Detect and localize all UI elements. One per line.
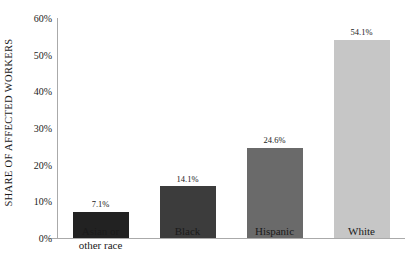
y-axis-tick-label: 40% xyxy=(34,86,52,97)
x-axis-category-label: Asian or other race xyxy=(57,225,144,253)
bar-value-label: 54.1% xyxy=(351,28,373,37)
bar-value-label: 7.1% xyxy=(92,200,110,209)
bar-rect[interactable] xyxy=(334,40,390,238)
bar-value-label: 14.1% xyxy=(177,175,199,184)
y-axis-tick-label: 60% xyxy=(34,13,52,24)
bar-value-label: 24.6% xyxy=(264,136,286,145)
bar-chart: SHARE OF AFFECTED WORKERS 0%10%20%30%40%… xyxy=(0,0,412,273)
y-axis-tick-label: 0% xyxy=(39,233,52,244)
y-axis-tick-label: 10% xyxy=(34,196,52,207)
y-axis-line xyxy=(57,18,58,238)
y-axis-title-text: SHARE OF AFFECTED WORKERS xyxy=(3,38,14,206)
x-axis-category-label: Hispanic xyxy=(231,225,318,239)
y-axis-tick-label: 20% xyxy=(34,159,52,170)
y-axis-title: SHARE OF AFFECTED WORKERS xyxy=(0,0,16,245)
x-axis-category-label: Black xyxy=(144,225,231,239)
y-axis-tick-label: 30% xyxy=(34,123,52,134)
y-axis-tick-label: 50% xyxy=(34,49,52,60)
x-axis-category-label: White xyxy=(318,225,405,239)
bar-group[interactable]: 24.6% xyxy=(247,134,303,238)
bar-group[interactable]: 54.1% xyxy=(334,26,390,238)
plot-area: 0%10%20%30%40%50%60% 7.1%14.1%24.6%54.1% xyxy=(57,18,405,238)
